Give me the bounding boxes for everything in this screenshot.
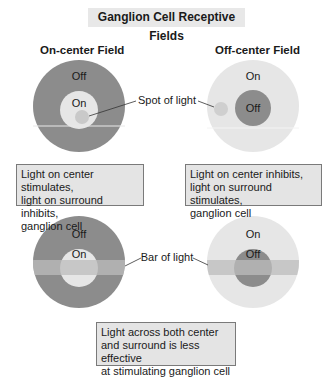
note-line: light on surround inhibits, <box>21 194 139 220</box>
note-line: Light on center inhibits, <box>190 168 317 181</box>
note-line: Light across both center <box>101 326 231 339</box>
note-line: Light on center stimulates, <box>21 168 139 194</box>
both-note: Light across both center and surround is… <box>96 322 236 366</box>
note-line: at stimulating ganglion cell <box>101 365 231 378</box>
center-label: Off <box>246 248 261 260</box>
center-label: On <box>72 248 87 260</box>
bar-label: Bar of light <box>141 251 194 263</box>
surround-label: Off <box>72 70 87 82</box>
center-label: Off <box>246 102 261 114</box>
spot-of-light <box>214 102 228 116</box>
note-line: ganglion cell <box>21 220 139 233</box>
bar-of-light <box>30 260 130 275</box>
surround-label: On <box>246 70 261 82</box>
bar-leader-right <box>193 258 208 265</box>
off-center-field-bar: On Off <box>205 216 305 308</box>
on-center-note: Light on center stimulates, light on sur… <box>16 164 144 206</box>
off-center-note: Light on center inhibits, light on surro… <box>185 164 322 206</box>
note-line: ganglion cell <box>190 207 317 220</box>
note-line: light on surround stimulates, <box>190 181 317 207</box>
center-label: On <box>72 97 87 109</box>
off-center-field-spot: On Off <box>207 60 299 152</box>
bar-leader-left <box>125 258 141 266</box>
note-line: and surround is less effective <box>101 339 231 365</box>
on-center-field-spot: Off On <box>33 60 125 152</box>
spot-of-light <box>75 110 89 124</box>
surround-label: On <box>246 228 261 240</box>
bar-of-light <box>205 260 305 275</box>
spot-label: Spot of light <box>138 94 196 106</box>
